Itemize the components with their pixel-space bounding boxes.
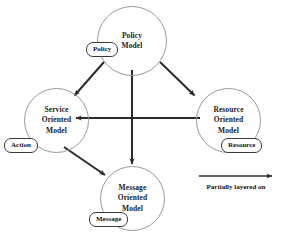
edge-service-to-message — [64, 147, 105, 175]
edge-policy-to-service — [75, 62, 105, 96]
tag-resource[interactable]: Resource — [221, 138, 262, 153]
node-service-oriented-model-label-line1: Service — [44, 105, 68, 115]
node-resource-oriented-model-label-line2: Oriented — [214, 115, 244, 125]
legend: Partially layered on — [193, 168, 283, 191]
node-policy-model-label-line2: Model — [122, 41, 143, 51]
node-message-oriented-model-label-line3: Model — [122, 204, 143, 214]
edge-policy-to-resource — [160, 62, 195, 96]
legend-caption: Partially layered on — [193, 183, 279, 191]
node-message-oriented-model-label-line1: Message — [119, 183, 147, 193]
node-policy-model-label-line1: Policy — [122, 31, 142, 41]
diagram-canvas: Policy Model Service Oriented Model Reso… — [0, 0, 283, 239]
tag-policy[interactable]: Policy — [86, 42, 118, 57]
node-service-oriented-model-label-line2: Oriented — [42, 115, 72, 125]
node-resource-oriented-model-label-line3: Model — [218, 126, 239, 136]
node-message-oriented-model-label-line2: Oriented — [118, 193, 148, 203]
node-service-oriented-model-label-line3: Model — [46, 126, 67, 136]
legend-arrow-slot — [193, 168, 279, 180]
tag-action[interactable]: Action — [4, 138, 38, 153]
node-policy-model[interactable]: Policy Model — [97, 6, 167, 76]
node-resource-oriented-model-label-line1: Resource — [213, 105, 243, 115]
tag-message[interactable]: Message — [89, 212, 128, 227]
